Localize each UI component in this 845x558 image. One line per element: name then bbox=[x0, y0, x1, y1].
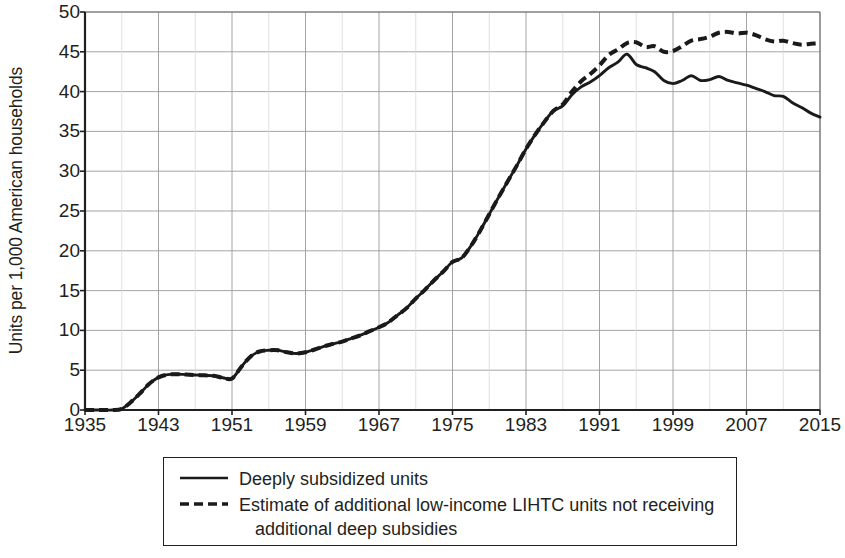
legend-label-deeply-subsidized: Deeply subsidized units bbox=[239, 467, 428, 491]
legend-label-lihtc-line2: additional deep subsidies bbox=[239, 517, 714, 541]
legend-label-lihtc-estimate: Estimate of additional low-income LIHTC … bbox=[239, 493, 714, 541]
legend: Deeply subsidized units Estimate of addi… bbox=[163, 457, 737, 546]
chart-figure: Units per 1,000 American households 0510… bbox=[0, 0, 845, 558]
legend-item-deeply-subsidized: Deeply subsidized units bbox=[178, 467, 428, 491]
legend-key-solid-icon bbox=[178, 467, 230, 487]
legend-key-dashed-icon bbox=[178, 493, 230, 513]
legend-item-lihtc-estimate: Estimate of additional low-income LIHTC … bbox=[178, 493, 714, 541]
legend-label-lihtc-line1: Estimate of additional low-income LIHTC … bbox=[239, 495, 714, 515]
plot-area bbox=[0, 0, 845, 445]
